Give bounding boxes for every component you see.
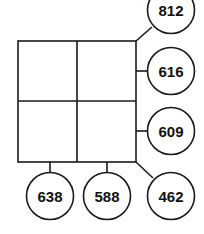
label-diagonal-top: 812	[158, 2, 183, 19]
label-col-2: 588	[94, 188, 119, 205]
label-row-1: 616	[158, 63, 183, 80]
connector-diagonal-bottom	[136, 162, 153, 178]
label-row-2: 609	[158, 123, 183, 140]
puzzle-diagram: 812 616 609 638 588 462	[0, 0, 204, 234]
connector-diagonal-top	[136, 27, 152, 41]
label-diagonal-bottom: 462	[158, 188, 183, 205]
label-col-1: 638	[37, 188, 62, 205]
